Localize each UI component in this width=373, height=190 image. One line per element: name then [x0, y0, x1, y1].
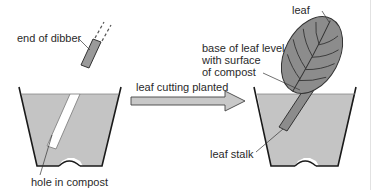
- dibber-dashed-edge-right: [102, 25, 111, 41]
- label-base-of-leaf-line1: base of leaf level: [202, 42, 285, 54]
- leaf: [269, 6, 355, 104]
- left-pot: [19, 87, 121, 166]
- label-end-of-dibber: end of dibber: [17, 32, 82, 44]
- dibber: [81, 22, 111, 68]
- diagram-canvas: end of dibber hole in compost leaf cutti…: [0, 0, 373, 190]
- label-base-of-leaf-line2: with surface: [201, 54, 261, 66]
- label-leaf-cutting-planted: leaf cutting planted: [136, 81, 228, 93]
- arrow-shape: [131, 91, 245, 111]
- right-pot-drain-hole: [295, 161, 316, 166]
- label-leaf-stalk: leaf stalk: [210, 148, 254, 160]
- left-pot-drain-hole: [59, 161, 80, 166]
- label-leaf: leaf: [292, 4, 311, 16]
- label-hole-in-compost: hole in compost: [31, 176, 108, 188]
- process-arrow: [131, 91, 245, 111]
- dibber-dashed-edge-left: [95, 22, 104, 38]
- propagation-diagram: end of dibber hole in compost leaf cutti…: [0, 0, 373, 190]
- dibber-end: [81, 39, 101, 68]
- label-base-of-leaf-line3: of compost: [202, 66, 256, 78]
